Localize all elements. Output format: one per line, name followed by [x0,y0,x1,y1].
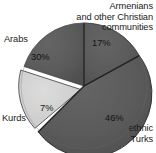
pie-label-turks-line1: ethnic [129,123,153,133]
pie-label-armenians-line2: and other Christian [76,12,153,22]
pie-value-arabs: 30% [31,52,50,62]
pie-label-turks-line2: Turks [131,134,153,144]
pie-value-ethnic-turks: 46% [105,113,124,123]
pie-label-armenians-line1: Armenians [109,1,153,11]
pie-label-arabs: Arabs [4,34,28,45]
pie-label-armenians: Armeniansand other Christiancommunities [76,1,153,33]
pie-value-kurds: 7% [40,103,53,113]
pie-chart: Armeniansand other Christiancommunities … [0,0,156,153]
pie-value-armenians: 17% [92,38,111,48]
pie-label-kurds: Kurds [2,113,26,124]
pie-label-armenians-line3: communities [102,22,153,32]
pie-label-ethnic-turks: ethnicTurks [129,123,153,144]
